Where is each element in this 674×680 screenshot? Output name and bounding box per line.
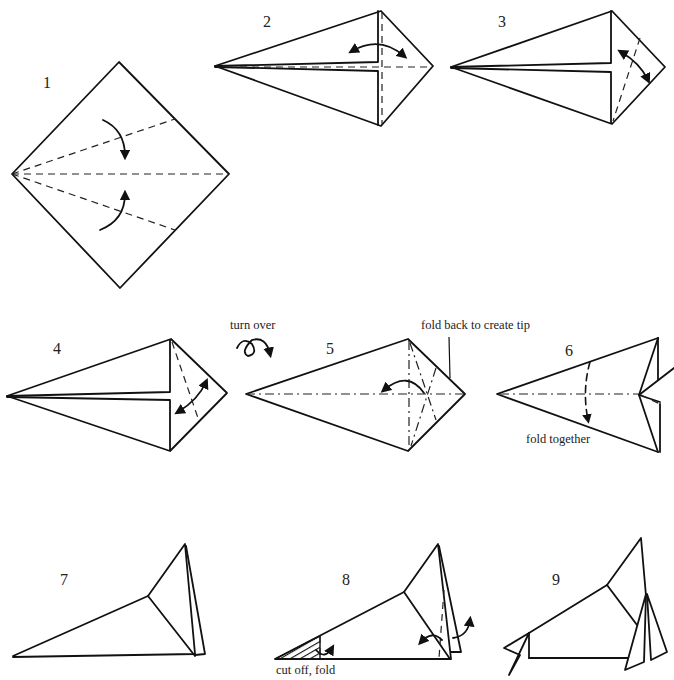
step-3-number: 3 [498, 13, 506, 31]
step-6-number: 6 [565, 342, 573, 360]
step-2-number: 2 [263, 13, 271, 31]
step-7-figure [13, 544, 205, 657]
step-8-caption: cut off, fold [276, 663, 335, 678]
step-5-caption: fold back to create tip [421, 318, 530, 333]
turn-over-icon [237, 339, 270, 356]
step-1-number: 1 [43, 74, 51, 92]
step-5-number: 5 [326, 340, 334, 358]
turn-over-caption: turn over [230, 318, 275, 333]
step-9-figure [504, 538, 667, 675]
step-4-number: 4 [53, 340, 61, 358]
step-7-number: 7 [60, 571, 68, 589]
step-3-figure [451, 11, 665, 124]
step-4-figure [7, 339, 227, 451]
step-6-caption: fold together [526, 432, 590, 447]
step-5-figure [246, 337, 465, 451]
step-9-number: 9 [552, 571, 560, 589]
step-2-figure [215, 11, 433, 126]
step-1-figure [12, 62, 229, 288]
step-8-number: 8 [342, 571, 350, 589]
step-8-figure [275, 544, 470, 659]
origami-diagram [0, 0, 674, 680]
